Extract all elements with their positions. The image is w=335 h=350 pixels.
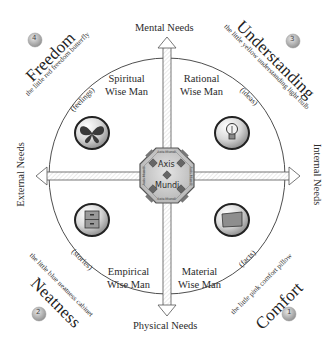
hub-ring-label-bottom: Axis Mundi xyxy=(157,197,176,201)
axis-mundi-diagram: Mental Needs Physical Needs External Nee… xyxy=(0,0,335,350)
wise-man-material: Material Wise Man xyxy=(178,265,221,291)
badge-number-2: 2 xyxy=(36,308,40,316)
lightbulb-icon xyxy=(215,117,249,149)
axis-label-right: Internal Needs xyxy=(312,135,323,215)
wise-man-spiritual: Spiritual Wise Man xyxy=(105,72,148,98)
pillow-icon xyxy=(215,204,249,236)
axis-mundi-hub xyxy=(140,148,194,203)
hub-ring-label-right: Axis Mundi xyxy=(189,164,193,188)
badge-number-1: 1 xyxy=(287,308,291,316)
badge-number-4: 4 xyxy=(32,34,36,42)
hub-ring-label-left: Axis Mundi xyxy=(142,164,146,188)
axis-label-top: Mental Needs xyxy=(135,22,194,33)
cabinet-icon xyxy=(75,204,109,236)
hub-ring-label-top: Axis Mundi xyxy=(157,150,176,154)
butterfly-icon xyxy=(75,117,109,149)
axis-label-bottom: Physical Needs xyxy=(133,320,197,331)
axis-label-left: External Needs xyxy=(15,135,26,215)
wise-man-rational: Rational Wise Man xyxy=(180,72,223,98)
hub-label-mundi: Mundi xyxy=(155,181,179,190)
hub-label-axis: Axis xyxy=(158,160,175,169)
wise-man-empirical: Empirical Wise Man xyxy=(107,265,150,291)
badge-number-3: 3 xyxy=(290,35,294,43)
